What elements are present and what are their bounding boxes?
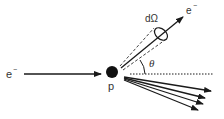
proton-dot (106, 66, 118, 78)
scattered-fan-arrows (124, 77, 211, 110)
svg-text:−: − (13, 66, 17, 73)
theta-angle-arc (140, 60, 145, 74)
scattered-electron-label: e − (186, 2, 197, 16)
fan-arrow-4 (124, 80, 198, 110)
scattering-diagram: e − p dΩ e − θ (0, 0, 224, 119)
proton-label: p (108, 80, 114, 92)
theta-label: θ (149, 57, 155, 69)
incoming-electron-label: e − (6, 66, 17, 80)
cone-edge-lower (123, 40, 165, 70)
solid-angle-label: dΩ (145, 13, 159, 24)
svg-text:−: − (193, 2, 197, 9)
svg-text:e: e (6, 68, 12, 80)
svg-text:e: e (186, 5, 192, 16)
